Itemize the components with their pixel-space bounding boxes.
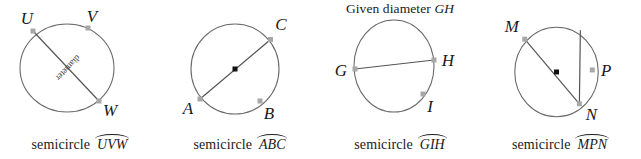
chord-mn — [525, 39, 580, 104]
caption-word: semicircle — [354, 137, 413, 152]
caption-abc: semicircleABC — [160, 137, 320, 153]
arc-name-mpn: MPN — [576, 137, 608, 153]
center-dot — [233, 67, 238, 72]
caption-word: semicircle — [194, 137, 253, 152]
point-marker-p — [590, 67, 595, 72]
caption-uvw: semicircleUVW — [0, 137, 160, 153]
semicircle-examples-figure: U V W diameter semicircleUVW A B C semic… — [0, 0, 641, 159]
point-label-m: M — [504, 17, 520, 36]
arc-overbar-icon — [418, 134, 447, 140]
panel-semicircle-abc: A B C semicircleABC — [160, 0, 320, 159]
point-label-w: W — [103, 101, 119, 120]
arc-overbar-icon — [95, 134, 129, 140]
point-label-n: N — [585, 105, 599, 124]
point-marker-w — [97, 99, 102, 104]
point-label-u: U — [21, 9, 35, 28]
center-dot — [554, 69, 559, 74]
point-label-b: B — [264, 104, 275, 123]
circle-outline — [354, 20, 434, 112]
point-label-h: H — [441, 51, 456, 70]
point-marker-i — [421, 92, 426, 97]
point-label-p: P — [600, 61, 611, 80]
diagram-mpn: M P N — [480, 0, 640, 132]
point-label-g: G — [335, 61, 347, 80]
point-marker-n — [577, 101, 582, 106]
diagram-abc: A B C — [160, 0, 320, 132]
point-marker-c — [268, 37, 273, 42]
point-label-i: I — [426, 97, 434, 116]
diagram-uvw: U V W diameter — [0, 0, 160, 132]
point-label-a: A — [182, 99, 194, 118]
caption-word: semicircle — [512, 137, 571, 152]
panel-semicircle-mpn: M P N semicircleMPN — [480, 0, 640, 159]
arc-name-uvw: UVW — [96, 137, 128, 153]
point-marker-a — [198, 97, 203, 102]
caption-gih: semicircleGIH — [320, 137, 480, 153]
panel-semicircle-gih: Given diameter GH G H I semicircleGIH — [320, 0, 480, 159]
point-marker-b — [258, 99, 263, 104]
panel-semicircle-uvw: U V W diameter semicircleUVW — [0, 0, 160, 159]
diagram-gih: G H I — [320, 0, 480, 132]
arc-name-gih: GIH — [419, 137, 446, 153]
point-marker-u — [31, 29, 36, 34]
arc-overbar-icon — [575, 134, 609, 140]
caption-mpn: semicircleMPN — [480, 137, 640, 153]
chord-top-to-n — [579, 30, 580, 104]
point-marker-v — [86, 26, 91, 31]
point-marker-m — [522, 37, 527, 42]
chord-gh — [355, 60, 434, 69]
point-label-c: C — [275, 15, 287, 34]
point-marker-g — [353, 67, 358, 72]
caption-word: semicircle — [32, 137, 91, 152]
arc-overbar-icon — [257, 134, 287, 140]
arc-name-abc: ABC — [258, 137, 286, 153]
point-label-v: V — [87, 7, 100, 26]
point-marker-h — [432, 58, 437, 63]
